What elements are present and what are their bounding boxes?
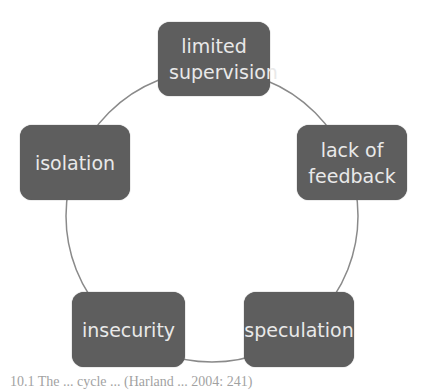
- figure-caption: 10.1 The ... cycle ... (Harland ... 2004…: [10, 374, 424, 390]
- node-lack-of-feedback: lack of feedback: [297, 125, 407, 200]
- node-insecurity: insecurity: [72, 292, 185, 367]
- node-label: isolation: [35, 150, 115, 176]
- node-label: lack of feedback: [307, 137, 397, 189]
- node-limited-supervision: limited supervision: [158, 22, 270, 96]
- node-label: insecurity: [82, 317, 175, 343]
- node-label: speculation: [244, 317, 353, 343]
- node-label: limited supervision: [169, 33, 259, 85]
- node-speculation: speculation: [244, 292, 354, 367]
- node-isolation: isolation: [20, 125, 130, 200]
